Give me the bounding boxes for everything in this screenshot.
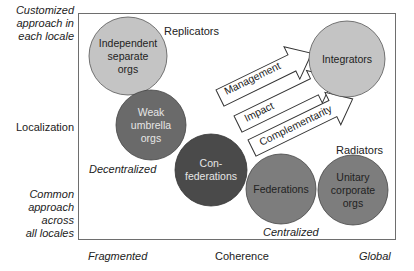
region-label-decentralized: Decentralized <box>89 163 156 176</box>
confed-line-1: Con- <box>175 157 247 170</box>
diagram-canvas <box>0 0 414 271</box>
independent-line-3: orgs <box>89 63 167 76</box>
weak-line-1: Weak <box>116 106 186 119</box>
independent-line-1: Independent <box>89 37 167 50</box>
unitary-line-2: corporate <box>318 184 388 197</box>
region-label-radiators: Radiators <box>336 144 383 157</box>
confed-line-2: federations <box>175 170 247 183</box>
weak-line-2: umbrella <box>116 119 186 132</box>
integrators-line-1: Integrators <box>309 53 385 66</box>
circle-label-federations: Federations <box>246 183 316 196</box>
region-label-replicators: Replicators <box>164 25 219 38</box>
circle-label-weak-umbrella: Weak umbrella orgs <box>116 106 186 145</box>
federations-line-1: Federations <box>246 183 316 196</box>
unitary-line-1: Unitary <box>318 171 388 184</box>
circle-label-unitary: Unitary corporate orgs <box>318 171 388 210</box>
circle-label-confederations: Con- federations <box>175 157 247 183</box>
unitary-line-3: orgs <box>318 197 388 210</box>
independent-line-2: separate <box>89 50 167 63</box>
circle-label-independent: Independent separate orgs <box>89 37 167 76</box>
weak-line-3: orgs <box>116 132 186 145</box>
circle-label-integrators: Integrators <box>309 53 385 66</box>
region-label-centralized: Centralized <box>263 226 319 239</box>
